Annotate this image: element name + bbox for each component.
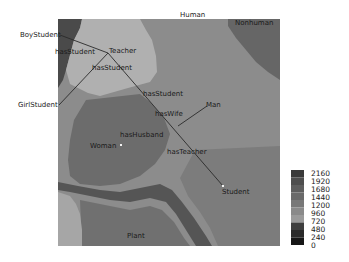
region-label-human: Human <box>180 11 205 19</box>
node-marker-student <box>222 185 224 187</box>
edge-label-hasstudent-2: hasStudent <box>92 64 132 72</box>
node-label-teacher: Teacher <box>108 47 136 55</box>
edge-label-hasstudent-3: hasStudent <box>143 90 183 98</box>
colorbar-swatch-2 <box>291 185 304 193</box>
node-label-girlstudent: GirlStudent <box>18 101 58 109</box>
node-label-man: Man <box>206 101 221 109</box>
colorbar-tick-0: 0 <box>311 241 316 250</box>
colorbar-swatch-6 <box>291 215 304 223</box>
region-label-plant: Plant <box>127 232 145 240</box>
colorbar-swatch-4 <box>291 200 304 208</box>
colorbar-swatch-1 <box>291 178 304 186</box>
edge-label-hashusband: hasHusband <box>120 131 163 139</box>
edge-label-hasstudent-1: hasStudent <box>55 48 95 56</box>
region-label-nonhuman: Nonhuman <box>235 19 273 27</box>
colorbar-swatch-7 <box>291 223 304 231</box>
node-marker-woman <box>120 144 122 146</box>
edge-label-hasteacher: hasTeacher <box>167 148 207 156</box>
node-label-woman: Woman <box>90 142 116 150</box>
node-label-boystudent: BoyStudent <box>20 31 61 39</box>
self-organizing-map: Human Nonhuman Plant BoyStudent Teacher … <box>0 0 349 262</box>
colorbar-swatch-5 <box>291 208 304 216</box>
edge-label-haswife: hasWife <box>155 110 183 118</box>
colorbar: 2160 1920 1680 1440 1200 960 720 480 240… <box>291 169 330 250</box>
node-label-student: Student <box>222 188 250 196</box>
colorbar-swatch-9 <box>291 238 304 246</box>
colorbar-swatch-8 <box>291 230 304 238</box>
colorbar-swatch-0 <box>291 170 304 178</box>
colorbar-swatch-3 <box>291 193 304 201</box>
